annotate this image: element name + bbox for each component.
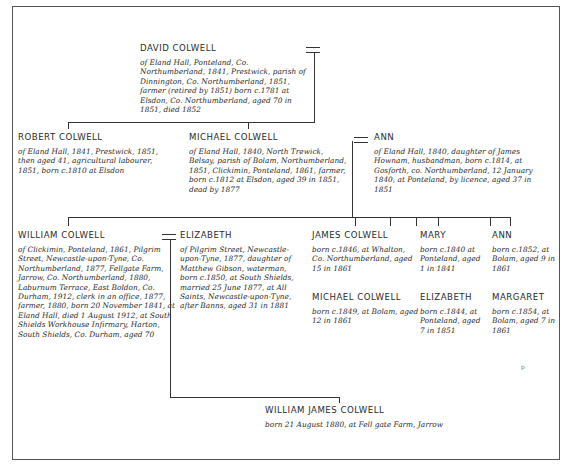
connector-line xyxy=(68,122,315,123)
marriage-symbol xyxy=(354,137,368,143)
connector-line xyxy=(68,217,511,218)
person-name: MICHAEL COLWELL xyxy=(312,292,422,303)
person-description: of Clickimin, Ponteland, 1861, Pilgrim S… xyxy=(18,245,178,339)
person-description: born 21 August 1880, at Fell gate Farm, … xyxy=(265,420,465,429)
page-mark: p xyxy=(521,363,525,370)
person-elizabeth-gibson: ELIZABETH of Pilgrim Street, Newcastle-u… xyxy=(180,230,300,311)
person-name: DAVID COLWELL xyxy=(140,43,315,54)
person-name: JAMES COLWELL xyxy=(312,230,417,241)
person-description: of Eland Hall, 1840, North Trewick, Bels… xyxy=(189,147,349,194)
connector-line xyxy=(438,217,439,226)
marriage-symbol xyxy=(162,234,176,240)
person-name: MARGARET xyxy=(492,292,560,303)
person-description: of Eland Hall, Ponteland, Co. Northumber… xyxy=(140,58,315,114)
person-elizabeth-colwell: ELIZABETH born c.1844, at Ponteland, age… xyxy=(420,292,485,335)
person-michael-colwell: MICHAEL COLWELL of Eland Hall, 1840, Nor… xyxy=(189,132,349,194)
person-description: born c.1849, at Bolam, aged 12 in 1861 xyxy=(312,307,422,326)
person-name: ELIZABETH xyxy=(180,230,300,241)
person-description: born c.1846, at Whalton, Co. Northumberl… xyxy=(312,245,417,273)
person-name: WILLIAM JAMES COLWELL xyxy=(265,405,465,416)
person-name: WILLIAM COLWELL xyxy=(18,230,178,241)
person-description: born c.1852, at Bolam, aged 9 in 1861 xyxy=(492,245,558,273)
connector-line xyxy=(390,217,391,226)
connector-line xyxy=(416,217,417,226)
person-description: of Pilgrim Street, Newcastle-upon-Tyne, … xyxy=(180,245,300,311)
person-name: ELIZABETH xyxy=(420,292,485,303)
connector-line xyxy=(314,53,315,123)
person-description: born c.1854, at Bolam, aged 7 in 1861 xyxy=(492,307,560,335)
person-description: of Eland Hall, 1840, daughter of James H… xyxy=(374,147,534,194)
person-name: ANN xyxy=(374,132,534,143)
person-description: born c.1844, at Ponteland, aged 7 in 185… xyxy=(420,307,485,335)
marriage-symbol xyxy=(306,47,320,53)
connector-line xyxy=(68,122,69,129)
person-james-colwell: JAMES COLWELL born c.1846, at Whalton, C… xyxy=(312,230,417,273)
person-ann-colwell: ANN born c.1852, at Bolam, aged 9 in 186… xyxy=(492,230,558,273)
connector-line xyxy=(355,217,356,226)
person-michael-colwell-jr: MICHAEL COLWELL born c.1849, at Bolam, a… xyxy=(312,292,422,326)
connector-line xyxy=(352,141,353,218)
person-description: of Eland Hall, 1841, Prestwick, 1851, th… xyxy=(18,147,168,175)
person-mary-colwell: MARY born c.1840 at Ponteland, aged 1 in… xyxy=(420,230,485,273)
connector-line xyxy=(68,217,69,226)
person-david-colwell: DAVID COLWELL of Eland Hall, Ponteland, … xyxy=(140,43,315,114)
connector-line xyxy=(170,240,171,398)
connector-line xyxy=(490,217,491,226)
person-william-colwell: WILLIAM COLWELL of Clickimin, Ponteland,… xyxy=(18,230,178,339)
connector-line xyxy=(248,122,249,129)
person-name: ANN xyxy=(492,230,558,241)
connector-line xyxy=(510,217,511,226)
connector-line xyxy=(339,397,340,403)
person-name: MICHAEL COLWELL xyxy=(189,132,349,143)
person-name: MARY xyxy=(420,230,485,241)
person-william-james-colwell: WILLIAM JAMES COLWELL born 21 August 188… xyxy=(265,405,465,429)
person-description: born c.1840 at Ponteland, aged 1 in 1841 xyxy=(420,245,485,273)
person-name: ROBERT COLWELL xyxy=(18,132,168,143)
connector-line xyxy=(170,397,340,398)
person-margaret-colwell: MARGARET born c.1854, at Bolam, aged 7 i… xyxy=(492,292,560,335)
person-robert-colwell: ROBERT COLWELL of Eland Hall, 1841, Pres… xyxy=(18,132,168,175)
person-ann-hownam: ANN of Eland Hall, 1840, daughter of Jam… xyxy=(374,132,534,194)
